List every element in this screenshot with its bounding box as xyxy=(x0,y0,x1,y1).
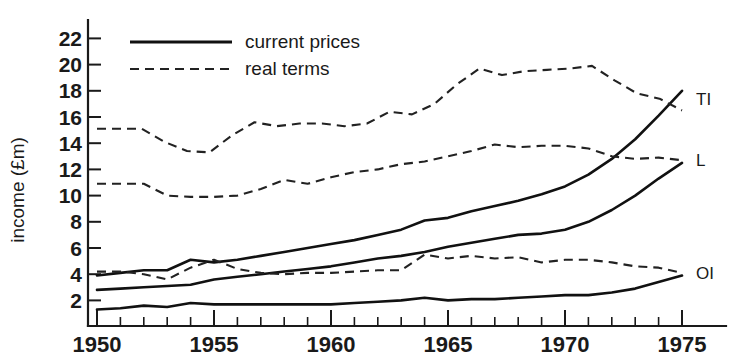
x-tick-label: 1970 xyxy=(541,332,590,357)
series-line-ti-real-terms xyxy=(97,66,682,152)
series-line-ti-current-prices xyxy=(97,91,682,276)
series-layer xyxy=(97,66,682,310)
axis-group xyxy=(88,20,726,326)
x-tick-label: 1955 xyxy=(190,332,239,357)
y-tick-label: 12 xyxy=(59,158,82,181)
series-end-label-l: L xyxy=(696,151,705,170)
x-tick-label: 1960 xyxy=(307,332,356,357)
series-line-oi-current-prices xyxy=(97,276,682,310)
y-tick-label: 8 xyxy=(70,210,82,233)
y-tick-labels: 2 4 6 8 10 12 14 16 18 20 22 xyxy=(59,27,83,312)
legend-label-current-prices: current prices xyxy=(245,31,360,52)
chart-canvas: 2 4 6 8 10 12 14 16 18 20 22 xyxy=(0,0,742,364)
x-tick-label: 1975 xyxy=(658,332,707,357)
y-tick-marks xyxy=(88,38,101,300)
y-tick-label: 16 xyxy=(59,106,82,129)
x-tick-labels: 1950 1955 1960 1965 1970 1975 xyxy=(73,332,707,357)
y-tick-label: 2 xyxy=(70,289,82,312)
legend-label-real-terms: real terms xyxy=(245,58,329,79)
x-tick-label: 1965 xyxy=(424,332,473,357)
y-tick-label: 4 xyxy=(70,263,82,286)
x-tick-marks xyxy=(97,310,682,326)
series-end-labels: TILOI xyxy=(696,90,714,283)
y-tick-label: 22 xyxy=(59,27,82,50)
y-tick-label: 20 xyxy=(59,53,82,76)
chart-legend: current prices real terms xyxy=(130,31,360,79)
y-tick-label: 10 xyxy=(59,184,82,207)
y-tick-label: 14 xyxy=(59,132,83,155)
y-tick-label: 6 xyxy=(70,237,82,260)
series-end-label-ti: TI xyxy=(696,90,711,109)
y-axis-title: income (£m) xyxy=(7,137,28,243)
series-end-label-oi: OI xyxy=(696,264,714,283)
y-tick-label: 18 xyxy=(59,79,83,102)
chart-figure: 2 4 6 8 10 12 14 16 18 20 22 xyxy=(0,0,742,364)
x-tick-label: 1950 xyxy=(73,332,122,357)
